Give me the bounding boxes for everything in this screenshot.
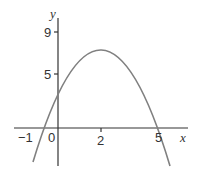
x-tick-label-5: 5 [155, 130, 162, 145]
y-tick-label-5: 5 [44, 67, 51, 82]
x-tick-label-2: 2 [97, 133, 104, 148]
x-tick-label-neg1: −1 [18, 130, 33, 145]
y-tick-label-9: 9 [44, 25, 51, 40]
y-axis-label: y [48, 6, 56, 21]
parabola-curve [33, 50, 170, 166]
x-axis-label: x [179, 130, 186, 145]
x-tick-label-0: 0 [48, 130, 55, 145]
parabola-chart: y 9 5 −1 0 2 5 x [0, 0, 198, 179]
